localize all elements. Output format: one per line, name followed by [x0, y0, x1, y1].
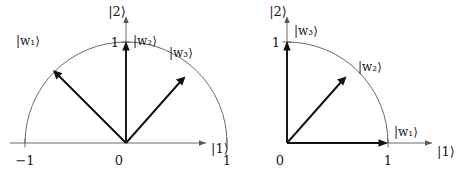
right-vector-label-w1: |w₁⟩ [394, 125, 418, 139]
figure-canvas: −1 0 1 1 |1⟩ |2⟩ |w₁⟩ |w₂⟩ |w₃⟩ [0, 0, 472, 182]
right-panel: 0 1 1 |1⟩ |2⟩ |w₁⟩ |w₂⟩ |w₃⟩ [269, 4, 455, 168]
right-vector-w2 [287, 82, 342, 144]
left-x-axis-label: |1⟩ [211, 141, 229, 156]
right-origin-label: 0 [276, 153, 284, 168]
left-vector-w1 [58, 75, 127, 144]
left-vector-w3 [126, 82, 181, 144]
left-y-tick-label-pos1: 1 [111, 35, 119, 50]
right-y-tick-label-pos1: 1 [272, 35, 280, 50]
left-origin-label: 0 [115, 153, 123, 168]
left-panel: −1 0 1 1 |1⟩ |2⟩ |w₁⟩ |w₂⟩ |w₃⟩ [10, 4, 231, 168]
left-vector-label-w2: |w₂⟩ [133, 34, 157, 48]
right-y-axis-label: |2⟩ [269, 4, 287, 19]
right-x-tick-label-pos1: 1 [384, 153, 392, 168]
left-x-tick-label-neg1: −1 [15, 153, 34, 168]
right-vector-label-w3: |w₃⟩ [294, 24, 318, 38]
left-y-axis-label: |2⟩ [108, 4, 126, 19]
right-vector-w1-arrowhead [379, 139, 389, 146]
right-x-axis-arrowhead [425, 140, 432, 145]
right-unit-quarter-arc [287, 42, 388, 143]
left-x-axis-arrowhead [199, 140, 206, 145]
right-vector-label-w2: |w₂⟩ [358, 60, 382, 74]
left-vector-label-w3: |w₃⟩ [169, 46, 193, 60]
left-vector-label-w1: |w₁⟩ [16, 34, 40, 48]
right-x-axis-label: |1⟩ [437, 144, 455, 159]
quantum-basis-vectors-figure: −1 0 1 1 |1⟩ |2⟩ |w₁⟩ |w₂⟩ |w₃⟩ [0, 0, 472, 182]
